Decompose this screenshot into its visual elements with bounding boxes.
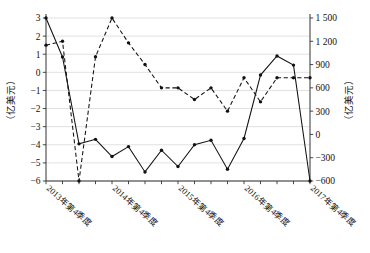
x-axis-tick-label: 2014年第4季度 xyxy=(111,182,161,229)
data-point xyxy=(77,179,80,182)
data-point xyxy=(94,55,97,58)
axis-titles: （亿美元）（亿美元） xyxy=(5,75,354,125)
data-point xyxy=(193,143,196,146)
data-point xyxy=(160,149,163,152)
data-point xyxy=(209,139,212,142)
y-axis-tick-labels: 3210−1−2−3−4−5−6 xyxy=(30,13,46,186)
x-axis-tick-label: 2017年第4季度 xyxy=(309,182,359,229)
data-point xyxy=(292,63,295,66)
y-axis-tick-label: −6 xyxy=(30,176,40,186)
y2-axis-tick-label: 1 500 xyxy=(316,13,338,23)
data-point xyxy=(61,40,64,43)
axes xyxy=(46,14,310,181)
y-axis-tick-label: −1 xyxy=(30,86,40,96)
data-series xyxy=(44,16,311,182)
data-point xyxy=(143,63,146,66)
y-axis-tick-label: −3 xyxy=(30,122,40,132)
y2-axis-tick-label: 300 xyxy=(316,107,331,117)
data-point xyxy=(226,168,229,171)
data-point xyxy=(259,100,262,103)
x-axis-tick-label: 2016年第4季度 xyxy=(243,182,293,229)
data-point xyxy=(275,54,278,57)
data-point xyxy=(94,138,97,141)
data-point xyxy=(275,76,278,79)
data-point xyxy=(308,179,311,182)
y2-axis-tick-label: 900 xyxy=(316,60,331,70)
data-point xyxy=(44,16,47,19)
y2-axis-tick-labels: 1 5001 2009006003000−300−600 xyxy=(310,13,337,186)
data-point xyxy=(127,41,130,44)
y-axis-tick-label: 2 xyxy=(36,32,41,42)
y-axis-tick-label: 1 xyxy=(36,50,41,60)
data-point xyxy=(143,170,146,173)
data-point xyxy=(193,98,196,101)
series-line-dashed xyxy=(46,18,310,181)
data-point xyxy=(242,137,245,140)
y-axis-tick-label: −5 xyxy=(30,158,40,168)
data-point xyxy=(226,109,229,112)
data-point xyxy=(209,86,212,89)
data-point xyxy=(259,73,262,76)
data-point xyxy=(308,76,311,79)
chart-container: 3210−1−2−3−4−5−6 1 5001 2009006003000−30… xyxy=(0,0,370,253)
data-point xyxy=(160,86,163,89)
y-axis-title: （亿美元） xyxy=(5,75,16,125)
y2-axis-tick-label: −300 xyxy=(316,153,336,163)
y2-axis-title: （亿美元） xyxy=(343,75,354,125)
series-line-solid xyxy=(46,18,310,181)
y-axis-tick-label: −2 xyxy=(30,104,40,114)
x-axis-tick-label: 2015年第4季度 xyxy=(177,182,227,229)
data-point xyxy=(176,86,179,89)
data-point xyxy=(127,145,130,148)
gridlines xyxy=(46,18,310,181)
data-point xyxy=(77,142,80,145)
data-point xyxy=(176,165,179,168)
x-axis-tick-labels: 2013年第4季度2014年第4季度2015年第4季度2016年第4季度2017… xyxy=(45,182,359,229)
y-axis-tick-label: 3 xyxy=(36,13,41,23)
y-axis-tick-label: 0 xyxy=(36,68,41,78)
data-point xyxy=(110,155,113,158)
data-point xyxy=(61,55,64,58)
data-point xyxy=(292,76,295,79)
x-axis-tick-label: 2013年第4季度 xyxy=(45,182,95,229)
data-point xyxy=(44,43,47,46)
data-point xyxy=(110,16,113,19)
y2-axis-tick-label: 1 200 xyxy=(316,37,338,47)
line-chart: 3210−1−2−3−4−5−6 1 5001 2009006003000−30… xyxy=(0,0,370,253)
y-axis-tick-label: −4 xyxy=(30,140,40,150)
data-point xyxy=(242,76,245,79)
y2-axis-tick-label: 0 xyxy=(316,130,321,140)
y2-axis-tick-label: 600 xyxy=(316,83,331,93)
